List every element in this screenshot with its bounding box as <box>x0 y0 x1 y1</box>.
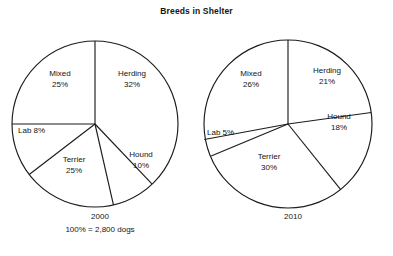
pie-2000-caption-total: 100% = 2,800 dogs <box>0 224 200 235</box>
pie-chart-2000: Mixed 25% Herding 32% Lab 8% Terrier 25%… <box>0 0 200 256</box>
pie-chart-figure: Breeds in Shelter Mixed 25% Herding 32% … <box>0 0 393 256</box>
pie-2000-terrier-pct: 25% <box>40 166 108 177</box>
pie-2010-label-herding: Herding 21% <box>293 66 361 87</box>
pie-2000-label-herding: Herding 32% <box>98 69 166 90</box>
pie-2010-herding-pct: 21% <box>293 77 361 88</box>
pie-2000-label-lab: Lab 8% <box>18 126 84 137</box>
pie-2000-terrier-name: Terrier <box>63 155 86 164</box>
pie-2000-mixed-pct: 25% <box>26 80 94 91</box>
pie-2010-lab-pct: 5% <box>223 128 235 137</box>
pie-2010-hound-name: Hound <box>327 112 351 121</box>
pie-2010-mixed-name: Mixed <box>240 69 261 78</box>
pie-2000-hound-pct: 10% <box>114 161 168 172</box>
pie-2000-herding-pct: 32% <box>98 80 166 91</box>
pie-2000-lab-pct: 8% <box>34 126 46 135</box>
pie-2010-label-mixed: Mixed 26% <box>217 69 285 90</box>
pie-2000-caption-year: 2000 <box>0 211 200 222</box>
pie-2010-terrier-pct: 30% <box>235 163 303 174</box>
pie-2010-herding-name: Herding <box>313 66 341 75</box>
pie-2000-hound-name: Hound <box>129 150 153 159</box>
pie-2010-terrier-name: Terrier <box>258 152 281 161</box>
pie-2000-label-terrier: Terrier 25% <box>40 155 108 176</box>
pie-2010-label-hound: Hound 18% <box>311 112 367 133</box>
pie-2000-lab-name: Lab <box>18 126 34 135</box>
pie-2010-label-terrier: Terrier 30% <box>235 152 303 173</box>
pie-2010-caption-year: 2010 <box>193 211 393 222</box>
pie-2010-hound-pct: 18% <box>311 123 367 134</box>
pie-2000-herding-name: Herding <box>118 69 146 78</box>
pie-2010-label-lab: Lab 5% <box>207 128 273 139</box>
pie-2000-label-hound: Hound 10% <box>114 150 168 171</box>
pie-chart-2010: Mixed 26% Herding 21% Lab 5% Terrier 30%… <box>193 0 393 256</box>
pie-2010-lab-name: Lab <box>207 128 223 137</box>
pie-2000-mixed-name: Mixed <box>49 69 70 78</box>
pie-2000-label-mixed: Mixed 25% <box>26 69 94 90</box>
pie-2010-mixed-pct: 26% <box>217 80 285 91</box>
